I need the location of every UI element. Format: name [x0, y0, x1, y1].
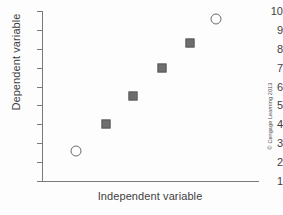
y-axis-tick-label: 5 — [249, 99, 283, 111]
y-axis-tick — [37, 49, 42, 50]
y-axis-tick-label: 8 — [249, 43, 283, 55]
y-axis-tick-label: 2 — [249, 156, 283, 168]
y-axis-tick — [37, 162, 42, 163]
y-axis-tick-label: 4 — [249, 118, 283, 130]
data-point-square — [185, 39, 194, 48]
y-axis-tick — [37, 124, 42, 125]
data-point-open-circle — [210, 13, 221, 24]
y-axis-line — [42, 11, 43, 182]
y-axis-tick — [37, 11, 42, 12]
data-point-square — [158, 63, 167, 72]
data-point-square — [102, 120, 111, 129]
data-point-open-circle — [70, 145, 81, 156]
y-axis-tick — [37, 181, 42, 182]
scatter-plot-figure: Dependent variable Independent variable … — [0, 0, 283, 215]
y-axis-tick — [37, 87, 42, 88]
y-axis-tick-label: 3 — [249, 137, 283, 149]
y-axis-tick — [37, 143, 42, 144]
y-axis-tick-label: 10 — [249, 5, 283, 17]
y-axis-tick — [37, 105, 42, 106]
y-axis-tick — [37, 68, 42, 69]
y-axis-label: Dependent variable — [10, 0, 22, 132]
data-point-square — [129, 92, 138, 101]
y-axis-tick-label: 9 — [249, 24, 283, 36]
copyright-credit: © Cengage Learning 2013 — [267, 51, 273, 181]
y-axis-tick-label: 1 — [249, 175, 283, 187]
y-axis-tick-label: 7 — [249, 62, 283, 74]
y-axis-tick-label: 6 — [249, 81, 283, 93]
y-axis-tick — [37, 30, 42, 31]
x-axis-label: Independent variable — [42, 190, 258, 202]
x-axis-line — [42, 181, 259, 182]
